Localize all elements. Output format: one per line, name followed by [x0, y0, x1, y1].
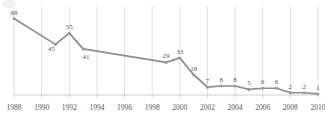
data-point-marker — [317, 92, 320, 95]
data-point-marker — [247, 88, 250, 91]
data-point-label: 6 — [261, 78, 265, 86]
data-point-marker — [68, 32, 71, 35]
data-point-label: 33 — [176, 48, 184, 56]
data-point-marker — [289, 91, 292, 94]
data-point-marker — [178, 56, 181, 59]
x-tick-label: 2002 — [200, 103, 215, 112]
data-point-label: 8 — [233, 76, 237, 84]
data-point-label: 18 — [190, 65, 198, 73]
data-point-marker — [234, 85, 237, 88]
x-tick-label: 1992 — [62, 103, 77, 112]
data-point-label: 7 — [206, 77, 210, 85]
data-point-marker — [206, 86, 209, 89]
data-point-marker — [192, 73, 195, 76]
data-point-marker — [165, 61, 168, 64]
data-point-marker — [275, 87, 278, 90]
data-point-marker — [261, 87, 264, 90]
x-tick-label: 2000 — [172, 103, 187, 112]
data-point-label: 6 — [275, 78, 279, 86]
data-point-marker — [220, 85, 223, 88]
x-tick-label: 1990 — [34, 103, 49, 112]
data-point-label: 41 — [83, 53, 91, 61]
data-point-marker — [303, 91, 306, 94]
data-point-label: 8 — [220, 76, 224, 84]
x-tick-label: 2004 — [228, 103, 243, 112]
x-tick-label: 1996 — [117, 103, 132, 112]
x-tick-label: 2008 — [283, 103, 298, 112]
data-point-label: 2 — [289, 83, 293, 91]
data-point-label: 29 — [163, 52, 171, 60]
data-point-marker — [13, 17, 16, 20]
data-point-marker — [82, 47, 85, 50]
x-tick-label: 1988 — [7, 103, 22, 112]
data-point-label: 55 — [66, 23, 74, 31]
data-point-label: 2 — [302, 83, 306, 91]
data-point-label: 5 — [247, 79, 251, 87]
data-point-label: 68 — [11, 9, 19, 17]
data-point-label: 45 — [48, 45, 56, 53]
x-tick-label: 1994 — [89, 103, 104, 112]
data-point-label: 1 — [316, 84, 320, 92]
line-chart-figure: 68455541293318788566221 1988199019921994… — [0, 0, 325, 125]
chart-plot-area: 68455541293318788566221 1988199019921994… — [0, 0, 325, 125]
x-tick-label: 2010 — [311, 103, 325, 112]
x-tick-label: 2006 — [255, 103, 270, 112]
x-tick-label: 1998 — [145, 103, 160, 112]
